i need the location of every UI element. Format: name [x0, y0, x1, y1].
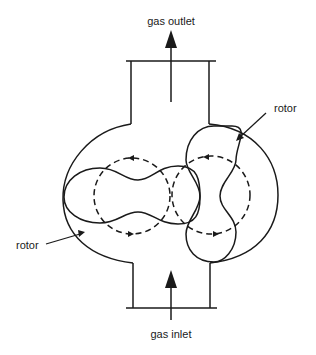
rotor-right-leader	[236, 113, 266, 141]
gas-outlet-label: gas outlet	[147, 15, 195, 27]
left-rotor	[64, 166, 200, 224]
rotor-left-leader	[46, 230, 85, 244]
casing-right	[209, 124, 278, 263]
rotor-left-label: rotor	[16, 239, 39, 251]
outlet-arrow-icon	[165, 30, 177, 102]
casing-left	[63, 124, 133, 263]
right-rotor	[186, 126, 241, 262]
rotor-right-label: rotor	[274, 102, 297, 114]
inlet-arrow-icon	[165, 270, 177, 320]
gas-inlet-label: gas inlet	[151, 328, 192, 340]
right-pitch-circle	[172, 156, 250, 234]
roots-blower-diagram: gas outlet gas inlet rotor rotor	[0, 0, 316, 355]
